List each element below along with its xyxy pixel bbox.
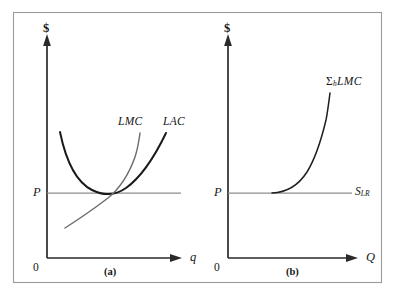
panel-a-caption: (a) [104,267,116,278]
panel-a-curve-lac [60,132,166,194]
supply-subscript: LR [361,189,370,198]
panel-b-sum-lmc-label: ΣhLMC [326,76,362,88]
panel-b-origin-label: 0 [214,262,220,274]
sum-lmc-text: LMC [337,75,362,87]
panel-a-x-axis-label: q [190,251,196,264]
panel-a-lmc-label: LMC [118,116,143,128]
panel-b-y-axis-arrowhead [224,34,232,46]
figure-frame [14,13,382,283]
panel-b-price-label: P [214,186,222,199]
panel-b-x-axis-arrowhead [346,254,358,262]
panel-b-caption: (b) [286,267,299,278]
sigma-symbol: Σ [326,75,333,87]
panel-a-y-axis-arrowhead [43,34,51,46]
figure-svg [0,0,395,295]
panel-b-x-axis-label: Q [366,251,375,264]
figure-container: $ q 0 P LMC LAC (a) $ Q 0 P ΣhLMC SLR (b… [0,0,395,295]
panel-b-group [224,34,358,262]
panel-a-curve-lmc [65,133,140,228]
panel-a-y-axis-label: $ [43,22,49,35]
panel-a-price-label: P [33,186,41,199]
panel-a-origin-label: 0 [33,262,39,274]
panel-a-x-axis-arrowhead [170,254,182,262]
panel-b-y-axis-label: $ [224,22,230,35]
panel-b-supply-label: SLR [355,186,370,198]
panel-a-lac-label: LAC [163,116,185,128]
panel-a-group [43,34,182,262]
panel-b-curve-sum-lmc [272,93,330,193]
